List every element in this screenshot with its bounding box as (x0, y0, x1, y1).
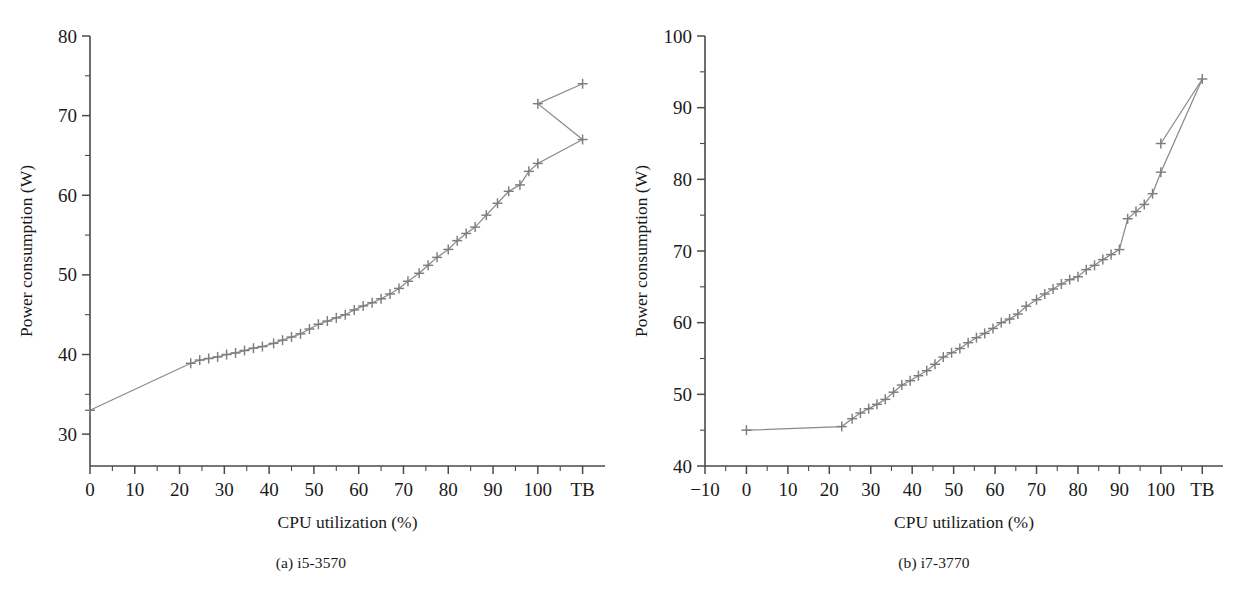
y-tick-label: 80 (673, 169, 692, 190)
data-point-marker (963, 338, 973, 348)
data-point-marker (1048, 284, 1058, 294)
x-tick-label: 70 (394, 479, 413, 500)
data-point-marker (1148, 189, 1158, 199)
x-tick-label: 20 (820, 479, 839, 500)
x-tick-label: 70 (1027, 479, 1046, 500)
data-point-marker (349, 305, 359, 315)
y-tick-label: 90 (673, 97, 692, 118)
y-tick-label: 60 (673, 312, 692, 333)
data-point-marker (287, 332, 297, 342)
y-tick-label: 50 (673, 384, 692, 405)
y-tick-label: 40 (58, 344, 77, 365)
data-point-marker (331, 313, 341, 323)
data-point-marker (269, 338, 279, 348)
x-axis-title: CPU utilization (%) (894, 512, 1034, 532)
x-tick-label: TB (570, 479, 594, 500)
data-point-marker (385, 289, 395, 299)
x-tick-label: 50 (304, 479, 323, 500)
chart-a-caption: (a) i5-3570 (0, 554, 622, 572)
data-point-marker (204, 354, 214, 364)
data-point-marker (864, 404, 874, 414)
data-point-marker (837, 422, 847, 432)
x-tick-label: 100 (1147, 479, 1176, 500)
y-tick-label: 100 (664, 26, 693, 47)
x-tick-label: 60 (986, 479, 1005, 500)
data-point-marker (313, 319, 323, 329)
x-tick-label: 0 (85, 479, 95, 500)
data-point-marker (367, 298, 377, 308)
x-tick-label: 90 (484, 479, 503, 500)
chart-b-canvas: 405060708090100−100102030405060708090100… (623, 0, 1245, 540)
data-point-marker (240, 346, 250, 356)
y-tick-label: 40 (673, 456, 692, 477)
data-point-marker (322, 316, 332, 326)
data-point-marker (872, 399, 882, 409)
chart-a-canvas: 3040506070800102030405060708090100TBCPU … (0, 0, 622, 540)
data-point-marker (358, 301, 368, 311)
data-point-marker (1197, 74, 1207, 84)
data-point-marker (1032, 295, 1042, 305)
data-point-marker (195, 355, 205, 365)
x-tick-label: 100 (524, 479, 553, 500)
data-point-marker (515, 180, 525, 190)
data-point-marker (913, 371, 923, 381)
data-point-marker (1056, 279, 1066, 289)
x-tick-label: 10 (778, 479, 797, 500)
series-polyline (746, 79, 1202, 430)
y-tick-label: 30 (58, 424, 77, 445)
data-point-marker (578, 79, 588, 89)
series-polyline-turbo (538, 84, 583, 140)
data-point-marker (376, 294, 386, 304)
x-tick-label: 10 (125, 479, 144, 500)
data-point-marker (186, 358, 196, 368)
x-tick-label: 60 (349, 479, 368, 500)
data-point-marker (1090, 260, 1100, 270)
data-point-marker (988, 323, 998, 333)
x-tick-label: 40 (260, 479, 279, 500)
x-tick-label: −10 (690, 479, 720, 500)
x-tick-label: 40 (903, 479, 922, 500)
data-point-marker (304, 324, 314, 334)
data-point-marker (222, 350, 232, 360)
y-tick-label: 70 (58, 105, 77, 126)
data-point-marker (980, 328, 990, 338)
x-tick-label: 0 (742, 479, 752, 500)
data-point-marker (1040, 289, 1050, 299)
chart-panel-a: 3040506070800102030405060708090100TBCPU … (0, 0, 622, 592)
data-point-marker (248, 343, 258, 353)
chart-b-caption: (b) i7-3770 (623, 554, 1245, 572)
data-point-marker (1106, 250, 1116, 260)
y-tick-label: 70 (673, 241, 692, 262)
data-point-marker (1156, 167, 1166, 177)
y-axis-title: Power consumption (W) (16, 165, 36, 337)
x-tick-label: 80 (1068, 479, 1087, 500)
data-point-marker (295, 329, 305, 339)
x-tick-label: 50 (944, 479, 963, 500)
data-point-marker (278, 335, 288, 345)
data-point-marker (340, 310, 350, 320)
x-tick-label: TB (1190, 479, 1214, 500)
data-point-marker (213, 352, 223, 362)
figure-root: 3040506070800102030405060708090100TBCPU … (0, 0, 1245, 592)
chart-panel-b: 405060708090100−100102030405060708090100… (623, 0, 1245, 592)
x-tick-label: 30 (861, 479, 880, 500)
x-axis-title: CPU utilization (%) (278, 512, 418, 532)
data-point-marker (1114, 245, 1124, 255)
data-point-marker (741, 425, 751, 435)
series-polyline-turbo (1161, 79, 1202, 144)
y-axis-title: Power consumption (W) (631, 165, 651, 337)
x-tick-label: 30 (215, 479, 234, 500)
y-tick-label: 80 (58, 26, 77, 47)
data-point-marker (1098, 255, 1108, 265)
data-point-marker (1156, 139, 1166, 149)
y-tick-label: 60 (58, 185, 77, 206)
x-tick-label: 20 (170, 479, 189, 500)
series-polyline (90, 140, 583, 411)
data-point-marker (257, 342, 267, 352)
data-point-marker (971, 333, 981, 343)
data-point-marker (847, 414, 857, 424)
data-point-marker (947, 348, 957, 358)
data-point-marker (231, 348, 241, 358)
data-point-marker (955, 343, 965, 353)
data-point-marker (85, 405, 95, 415)
